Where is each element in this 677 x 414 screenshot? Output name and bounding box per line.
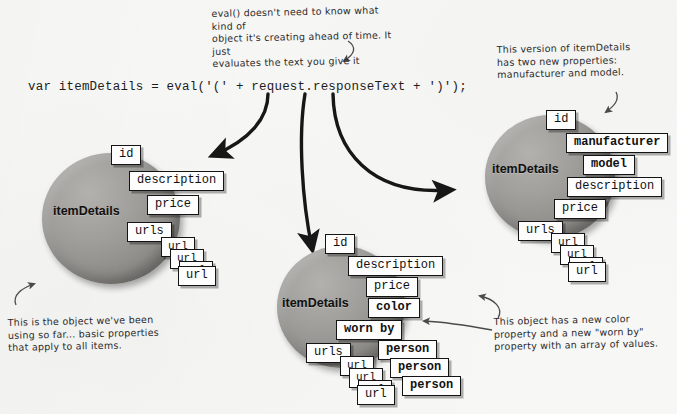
property-box: description bbox=[567, 177, 662, 197]
annotation-eval-note: eval() doesn't need to know what kind of… bbox=[211, 4, 402, 70]
annotation-right-note: This version of itemDetails has two new … bbox=[497, 40, 677, 81]
annotation-left-note: This is the object we've been using so f… bbox=[8, 313, 189, 354]
worn-by-item-box: person bbox=[402, 376, 461, 396]
arrow-rightnote-to-object bbox=[606, 92, 617, 112]
array-item-box: url bbox=[568, 262, 606, 282]
arrow-note-to-color bbox=[480, 296, 500, 318]
object-label-right: itemDetails bbox=[492, 162, 559, 176]
property-box: worn by bbox=[336, 320, 402, 340]
arrow-leftnote-to-object bbox=[15, 284, 34, 305]
worn-by-item-box: person bbox=[390, 358, 449, 378]
property-box: color bbox=[368, 298, 420, 318]
arrow-note-to-wornby bbox=[424, 321, 492, 330]
object-label-left: itemDetails bbox=[53, 204, 120, 218]
arrow-code-to-right-object bbox=[333, 94, 450, 191]
property-box: id bbox=[111, 145, 141, 165]
arrow-code-to-left-object bbox=[214, 94, 268, 155]
property-box: description bbox=[129, 171, 224, 191]
property-box: id bbox=[325, 234, 355, 254]
object-label-middle: itemDetails bbox=[282, 296, 349, 310]
property-box: price bbox=[147, 195, 199, 215]
property-box: manufacturer bbox=[566, 133, 668, 153]
property-box: price bbox=[366, 277, 418, 297]
array-item-box: url bbox=[357, 385, 395, 405]
annotation-bottom-note: This object has a new color property and… bbox=[494, 312, 677, 353]
property-box: price bbox=[554, 199, 606, 219]
property-box: id bbox=[546, 110, 576, 130]
code-line: var itemDetails = eval('(' + request.res… bbox=[28, 80, 467, 94]
arrow-code-to-middle-object bbox=[301, 94, 312, 248]
array-item-box: url bbox=[178, 266, 216, 286]
property-box: description bbox=[348, 256, 443, 276]
property-box: model bbox=[583, 155, 635, 175]
worn-by-item-box: person bbox=[378, 340, 437, 360]
